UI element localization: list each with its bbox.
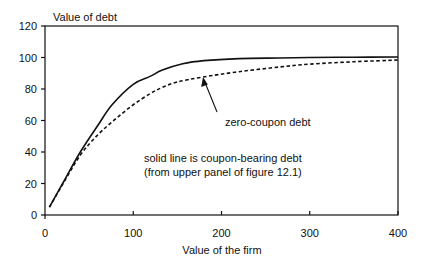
- y-tick-label: 120: [19, 20, 37, 32]
- y-tick-label: 60: [25, 115, 37, 127]
- note-line-1: solid line is coupon-bearing debt: [144, 152, 302, 164]
- y-axis-title: Value of debt: [53, 11, 117, 23]
- x-tick-label: 100: [124, 227, 142, 239]
- y-tick-label: 0: [31, 209, 37, 221]
- y-tick-label: 20: [25, 178, 37, 190]
- x-tick-label: 300: [301, 227, 319, 239]
- chart: 0 20 40 60 80 100 120 0 100 200 300 400 …: [0, 0, 426, 270]
- y-tick-label: 80: [25, 83, 37, 95]
- zero-coupon-label: zero-coupon debt: [225, 116, 311, 128]
- y-tick-label: 40: [25, 146, 37, 158]
- x-tick-label: 0: [42, 227, 48, 239]
- note-line-2: (from upper panel of figure 12.1): [144, 166, 302, 178]
- y-axis: 0 20 40 60 80 100 120: [19, 20, 45, 221]
- series-zero-coupon-debt: [49, 60, 398, 207]
- x-tick-label: 200: [212, 227, 230, 239]
- arrow-annotation: [201, 77, 217, 112]
- y-tick-label: 100: [19, 52, 37, 64]
- x-tick-label: 400: [389, 227, 407, 239]
- x-axis-title: Value of the firm: [182, 244, 261, 256]
- plot-frame: [45, 26, 398, 215]
